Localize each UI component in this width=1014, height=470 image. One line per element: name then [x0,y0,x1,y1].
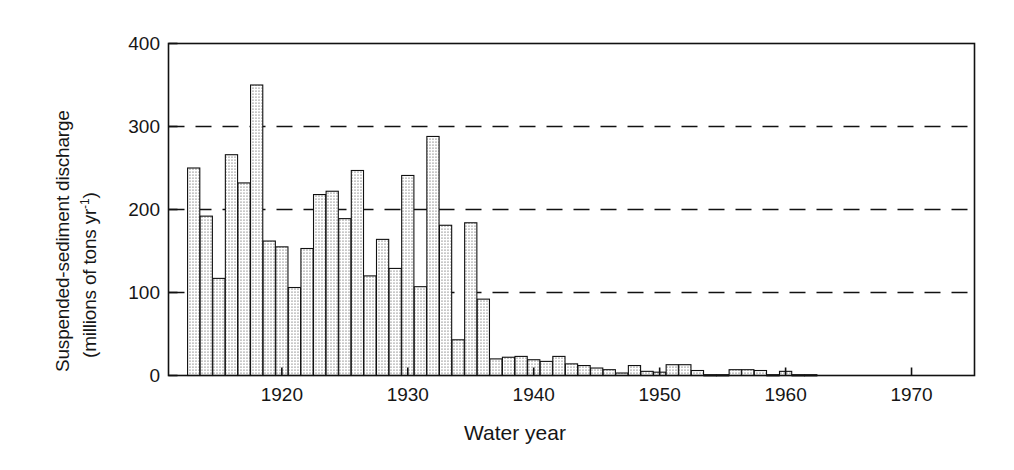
x-axis-label-text: Water year [464,421,566,444]
x-axis-tick-label: 1960 [764,384,806,406]
x-axis-tick-label: 1920 [261,384,303,406]
bar [742,370,754,376]
bar [427,136,439,375]
bar [402,175,414,375]
bar [565,364,577,376]
bar [628,366,640,376]
bar [553,356,565,375]
bar [591,368,603,375]
bar [679,365,691,376]
chart-figure: Suspended-sediment discharge (millions o… [0,0,1014,470]
x-axis-label: Water year [0,421,1014,445]
bar [477,299,489,375]
y-axis-tick-label: 0 [96,366,160,385]
x-axis-tick-label: 1940 [513,384,555,406]
bar [301,249,313,376]
bar-series [188,85,817,376]
bar [213,278,225,375]
y-axis-tick-label: 100 [96,283,160,302]
bar [490,359,502,376]
bar [465,223,477,376]
bar [603,370,615,376]
gridlines [169,127,975,293]
bar [452,340,464,376]
bar [288,288,300,376]
bar [729,370,741,376]
bar [376,239,388,375]
y-axis-tick-label: 300 [96,117,160,136]
bar [364,276,376,376]
bar [188,168,200,376]
y-axis-tick-label: 200 [96,200,160,219]
bar [666,365,678,376]
x-axis-tick-labels: 192019301940195019601970 [0,384,1014,414]
bar [238,183,250,376]
bar [200,216,212,375]
bar [225,155,237,376]
x-axis-tick-label: 1950 [639,384,681,406]
x-axis-tick-label: 1930 [387,384,429,406]
y-axis-units-exponent: -1 [78,199,92,209]
bar [314,195,326,376]
bar [578,366,590,376]
bar [515,356,527,375]
bar [276,247,288,376]
y-axis-tick-label: 400 [96,34,160,53]
bar [502,357,514,375]
bar [326,191,338,375]
bar [439,225,451,375]
y-axis-label-line1: Suspended-sediment discharge [52,110,74,372]
bar [263,241,275,375]
bar [389,268,401,375]
bar [339,219,351,376]
bar [251,85,263,376]
bar [540,361,552,375]
bar [351,170,363,375]
bar [414,287,426,376]
x-axis-tick-label: 1970 [890,384,932,406]
